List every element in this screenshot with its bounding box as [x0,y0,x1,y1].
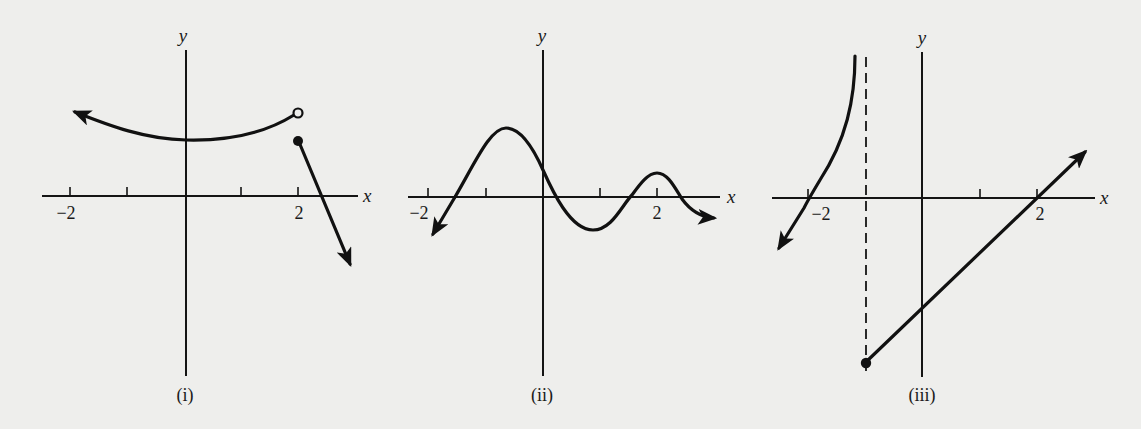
tick-label-pos2: 2 [653,203,662,223]
tick-label-neg2: −2 [409,203,428,223]
tick-label-neg2: −2 [811,204,830,224]
filled-endpoint [293,136,303,146]
panel-ii: y x −2 2 (ii) [408,25,736,406]
filled-endpoint [861,358,871,368]
tick-label-pos2: 2 [295,203,304,223]
y-axis-label: y [177,25,188,46]
wave-curve [455,128,714,230]
x-axis-label: x [726,186,736,207]
panel-caption: (iii) [909,385,936,406]
y-axis-label: y [916,27,927,48]
tick-label-pos2: 2 [1036,204,1045,224]
panel-iii: y x −2 2 (iii) [772,27,1109,406]
panel-caption: (ii) [531,385,553,406]
wave-curve-left-tail [433,197,455,234]
y-axis-label: y [536,25,547,46]
line-right-piece [299,142,350,264]
open-endpoint [294,109,303,118]
panel-i: y x −2 2 (i) [42,25,372,406]
figure: y x −2 2 (i) y x −2 2 (ii) y x −2 2 [0,0,1141,429]
curve-left-piece [75,112,294,140]
tick-label-neg2: −2 [56,203,75,223]
x-axis-label: x [362,185,372,206]
panel-caption: (i) [177,385,194,406]
x-axis-label: x [1099,187,1109,208]
right-branch-line [866,152,1085,362]
